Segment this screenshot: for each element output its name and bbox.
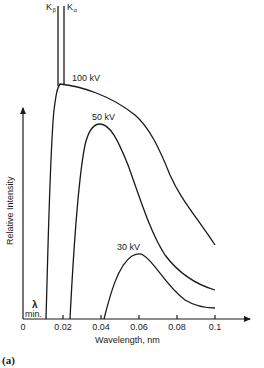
series-label-100kv: 100 kV (72, 73, 100, 83)
y-axis-label: Relative Intensity (5, 176, 15, 245)
curve-50kv (70, 124, 215, 319)
series-label-50kv: 50 kV (92, 112, 115, 122)
k-alpha-subscript: α (74, 7, 78, 13)
x-tick-label: 0 (20, 322, 25, 332)
curve-30kv (104, 254, 215, 319)
panel-label: (a) (2, 354, 15, 367)
k-beta-label: K (46, 2, 52, 12)
xray-spectrum-chart: 0 0.02 0.04 0.06 0.08 0.1 Wavelength, nm… (0, 0, 264, 368)
lambda-min-label: min. (25, 309, 42, 319)
x-axis-label: Wavelength, nm (95, 335, 160, 345)
k-alpha-label: K (67, 2, 73, 12)
x-tick-label: 0.06 (130, 322, 148, 332)
x-tick-label: 0.1 (209, 322, 222, 332)
x-tick-label: 0.04 (92, 322, 110, 332)
k-beta-subscript: β (53, 7, 57, 13)
x-tick-label: 0.08 (168, 322, 186, 332)
series-label-30kv: 30 kV (117, 242, 140, 252)
x-tick-label: 0.02 (54, 322, 72, 332)
